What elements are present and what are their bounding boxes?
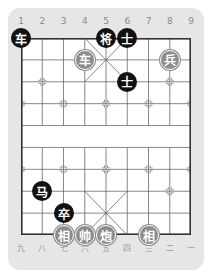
file-label-top: 4	[78, 16, 92, 26]
file-label-bottom: 八	[35, 242, 49, 253]
black-piece[interactable]: 士	[117, 72, 137, 92]
file-label-bottom: 二	[163, 242, 177, 253]
file-label-top: 7	[142, 16, 156, 26]
black-piece[interactable]: 将	[96, 28, 116, 48]
file-label-top: 9	[184, 16, 198, 26]
red-piece[interactable]: 帅	[75, 225, 95, 245]
file-label-top: 1	[14, 16, 28, 26]
black-piece[interactable]: 卒	[54, 203, 74, 223]
red-piece[interactable]: 兵	[160, 50, 180, 70]
red-piece[interactable]: 相	[139, 225, 159, 245]
file-label-top: 2	[35, 16, 49, 26]
red-piece[interactable]: 炮	[96, 225, 116, 245]
file-label-top: 8	[163, 16, 177, 26]
red-piece[interactable]: 相	[54, 225, 74, 245]
file-label-bottom: 四	[120, 242, 134, 253]
file-label-bottom: 九	[14, 242, 28, 253]
red-piece[interactable]: 车	[75, 50, 95, 70]
file-label-bottom: 一	[184, 242, 198, 253]
black-piece[interactable]: 车	[11, 28, 31, 48]
file-label-top: 6	[120, 16, 134, 26]
file-label-top: 5	[99, 16, 113, 26]
file-label-top: 3	[57, 16, 71, 26]
